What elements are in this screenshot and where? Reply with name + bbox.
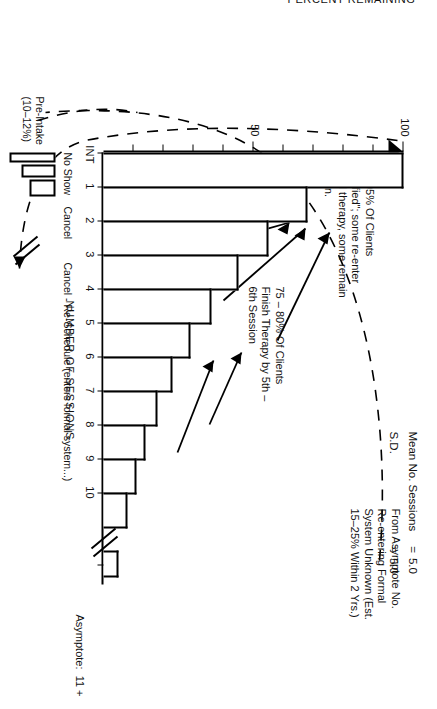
y-tick-100 <box>402 141 403 151</box>
rotated-figure-stage: Mean No. Sessions = 5.0 S.D. = 5.0 <box>0 0 437 709</box>
y-tick-60 <box>282 144 283 151</box>
y-tick-30 <box>192 144 193 151</box>
y-tick-70 <box>312 144 313 151</box>
pre-intake-bar-cancel-reschedule <box>29 179 55 196</box>
y-label-50: 50 <box>248 106 260 136</box>
y-tick-50 <box>252 141 253 151</box>
x-tick-4 <box>97 288 103 289</box>
pre-intake-bar-no-show <box>9 152 55 162</box>
y-tick-80 <box>342 144 343 151</box>
x-tick-7 <box>97 390 103 391</box>
pre-intake-panel <box>5 152 57 352</box>
y-tick-90 <box>372 144 373 151</box>
pre-intake-label-cancel: Cancel <box>61 206 73 239</box>
x-tick-2 <box>97 220 103 221</box>
x-label-10: 10 <box>83 472 95 512</box>
x-tick-6 <box>97 356 103 357</box>
x-tick-11-plus <box>97 564 103 565</box>
annotation-asymptote-label: Asymptote: 11 + <box>72 614 86 696</box>
bar-3 <box>103 254 238 290</box>
bar-series <box>103 152 403 577</box>
bar-INT <box>103 152 403 188</box>
reentry-curve <box>37 109 137 120</box>
bar-7 <box>103 390 157 426</box>
pre-intake-group-label: Pre-Intake (10–12%) <box>19 96 45 144</box>
x-tick-9 <box>97 458 103 459</box>
y-axis-title: PERCENT REMAINING <box>287 0 415 4</box>
bar-2 <box>103 220 268 256</box>
x-tick-3 <box>97 254 103 255</box>
pre-intake-label-cancel-reschedule: Cancel - Re-Schedule (enters formal syst… <box>61 262 73 481</box>
bar-6 <box>103 356 172 392</box>
figure-page: Mean No. Sessions = 5.0 S.D. = 5.0 <box>0 0 437 709</box>
bar-5 <box>103 322 190 358</box>
y-tick-20 <box>162 144 163 151</box>
y-tick-40 <box>222 144 223 151</box>
bar-4 <box>103 288 211 324</box>
bar-11-plus <box>103 550 118 577</box>
bar-1 <box>103 186 307 222</box>
x-tick-10 <box>97 492 103 493</box>
bar-10 <box>103 492 127 528</box>
x-tick-8 <box>97 424 103 425</box>
x-tick-1 <box>97 186 103 187</box>
bar-8 <box>103 424 145 460</box>
x-tick-5 <box>97 322 103 323</box>
pre-intake-label-no-show: No Show <box>61 152 73 195</box>
y-tick-10 <box>132 144 133 151</box>
pre-intake-bar-cancel <box>21 164 55 177</box>
x-tick-INT <box>97 152 103 153</box>
bar-9 <box>103 458 136 494</box>
y-label-100: 100 <box>398 106 410 136</box>
